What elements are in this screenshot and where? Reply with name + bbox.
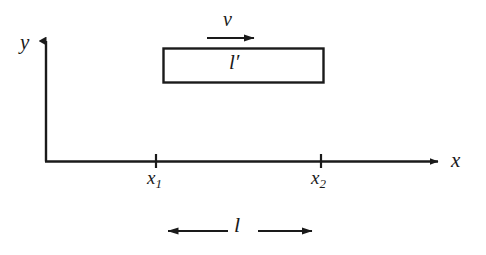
velocity-label: v [223, 9, 232, 29]
diagram-canvas [0, 0, 486, 255]
rod-proper-length-label: l′ [229, 52, 239, 73]
y-axis-label: y [20, 32, 29, 53]
physics-diagram: y x x1 x2 v l′ l [0, 0, 486, 255]
length-dimension-label: l [234, 214, 240, 236]
rod-rectangle [164, 49, 324, 83]
tick-label-x2: x2 [311, 168, 326, 190]
tick-label-x1-subscript: 1 [155, 176, 162, 191]
tick-label-x1: x1 [147, 168, 162, 190]
x-axis-label: x [451, 150, 460, 171]
tick-label-x2-subscript: 2 [319, 176, 326, 191]
